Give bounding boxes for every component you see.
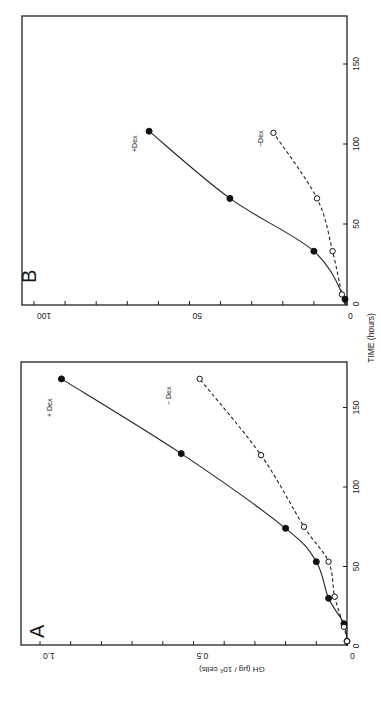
minus-dex-point: [326, 559, 331, 564]
panel-a-ticks: 00.51.0050100150: [40, 400, 361, 661]
plus-dex-curve: [149, 131, 347, 304]
plus-dex-point: [326, 595, 332, 601]
panel-a-curves: [61, 379, 347, 646]
minus-dex-point: [339, 292, 344, 297]
value-tick-label: 0: [350, 651, 355, 661]
plus-dex-point: [311, 248, 317, 254]
panel-b-plus-dex-label: +Dex: [131, 135, 138, 152]
time-tick-label: 100: [351, 137, 361, 151]
minus-dex-point: [341, 624, 346, 629]
x-axis-title: TIME (hours): [366, 313, 376, 363]
value-tick-label: 50: [192, 311, 202, 321]
value-tick-label: 1.0: [43, 651, 55, 661]
panel-a-frame: [21, 362, 347, 645]
minus-dex-point: [344, 639, 349, 644]
minus-dex-curve: [200, 379, 348, 646]
panel-b-curves: [149, 131, 347, 304]
plus-dex-point: [283, 525, 289, 531]
time-tick-label: 150: [351, 57, 361, 71]
value-tick-label: 100: [37, 311, 51, 321]
minus-dex-point: [197, 376, 202, 381]
figure-canvas: 050100050100150 B +Dex −Dex 00.51.005010…: [0, 0, 381, 705]
panel-b-minus-dex-label: −Dex: [257, 130, 264, 147]
plus-dex-point: [227, 195, 233, 201]
panel-b-frame: [22, 16, 347, 305]
value-tick-label: 0.5: [196, 651, 208, 661]
plus-dex-point: [146, 128, 152, 134]
plus-dex-point: [313, 559, 319, 565]
panel-b-chart: 050100050100150 B +Dex −Dex: [18, 16, 361, 321]
minus-dex-point: [258, 453, 263, 458]
minus-dex-point: [330, 249, 335, 254]
minus-dex-point: [301, 524, 306, 529]
time-tick-label: 150: [351, 400, 361, 414]
panel-b-letter: B: [18, 270, 40, 283]
time-tick-label: 0: [351, 301, 361, 306]
time-tick-label: 0: [351, 643, 361, 648]
panel-a-minus-dex-label: − Dex: [165, 386, 172, 405]
minus-dex-point: [314, 196, 319, 201]
plus-dex-curve: [61, 379, 347, 646]
time-tick-label: 100: [351, 480, 361, 494]
y-axis-title: GH (µg / 10⁶ cells): [199, 665, 265, 674]
plus-dex-point: [58, 376, 64, 382]
panel-a-plus-dex-label: + Dex: [46, 398, 53, 417]
value-tick-label: 0: [348, 311, 353, 321]
minus-dex-point: [271, 130, 276, 135]
panel-a-chart: 00.51.0050100150 A + Dex − Dex GH (µg / …: [21, 362, 361, 674]
plus-dex-point: [178, 451, 184, 457]
panel-a-letter: A: [26, 624, 48, 638]
time-tick-label: 50: [351, 562, 361, 572]
time-tick-label: 50: [351, 219, 361, 229]
minus-dex-point: [332, 594, 337, 599]
panel-a-points: [58, 376, 350, 644]
